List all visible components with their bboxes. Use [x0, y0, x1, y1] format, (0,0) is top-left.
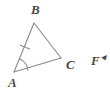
vertex-label-c: C [66, 58, 75, 71]
triangle-side-bc [34, 23, 61, 58]
vertex-label-b: B [31, 3, 40, 16]
annotation-cut-glyph-icon: ◂ [101, 51, 106, 64]
annotation-letter: F [91, 53, 100, 68]
annotation-label-f: F◂ [91, 51, 106, 67]
vertex-label-a: A [8, 76, 17, 89]
geometry-figure: B A C F◂ [0, 0, 110, 92]
triangle-side-ab [14, 23, 34, 72]
